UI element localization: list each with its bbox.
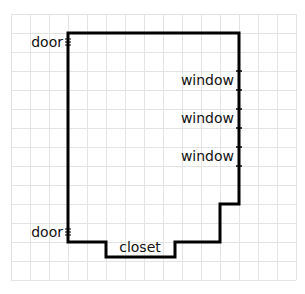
window-2-label: window — [181, 110, 234, 126]
door-bottom-label: door — [31, 224, 63, 240]
closet-label: closet — [119, 239, 161, 255]
floor-plan: door door window window window closet — [0, 0, 305, 294]
door-top-label: door — [31, 34, 63, 50]
window-3-label: window — [181, 148, 234, 164]
window-1-label: window — [181, 72, 234, 88]
